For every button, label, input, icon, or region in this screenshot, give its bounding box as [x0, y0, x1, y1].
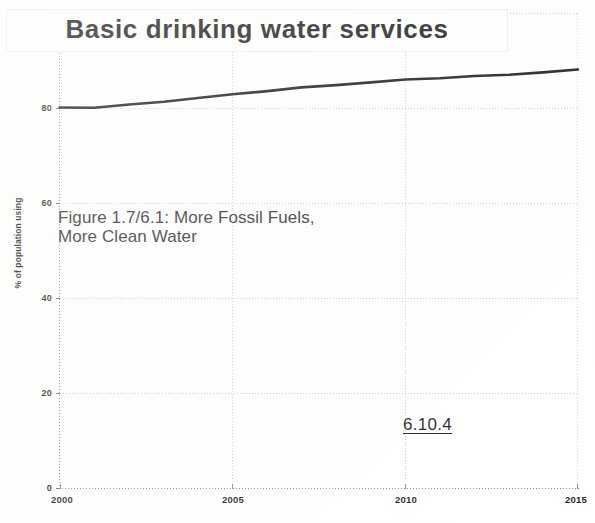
section-reference: 6.10.4	[403, 415, 452, 435]
y-tick-label-60: 60	[0, 198, 52, 208]
x-tick-label-2000: 2000	[51, 494, 73, 505]
y-tick-label-80: 80	[0, 103, 52, 113]
figure-caption: Figure 1.7/6.1: More Fossil Fuels, More …	[58, 208, 315, 246]
x-tick-label-2010: 2010	[395, 494, 417, 505]
y-tick-label-40: 40	[0, 293, 52, 303]
y-tick-label-20: 20	[0, 388, 52, 398]
y-axis-title: % of population using	[13, 133, 23, 353]
x-tick-label-2015: 2015	[565, 494, 587, 505]
series-canvas	[60, 13, 578, 488]
plot-area	[60, 13, 578, 488]
series-line-basic-drinking-water	[60, 70, 578, 108]
x-tick-label-2005: 2005	[222, 494, 244, 505]
chart-title: Basic drinking water services	[6, 14, 508, 45]
y-tick-label-0: 0	[0, 483, 52, 493]
chart-figure: % of population using 0 20 40 60 80 100	[0, 0, 595, 523]
x-axis-line	[59, 488, 579, 489]
